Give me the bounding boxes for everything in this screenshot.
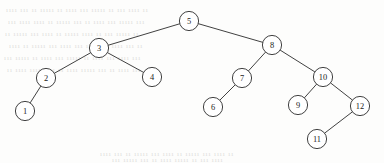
tree-node-2[interactable]: 2 (36, 68, 55, 87)
node-label: 7 (240, 74, 244, 83)
node-label: 11 (313, 135, 321, 144)
tree-edge (199, 24, 263, 42)
node-label: 10 (319, 73, 327, 82)
node-label: 2 (44, 74, 48, 83)
tree-node-7[interactable]: 7 (232, 68, 251, 87)
node-label: 9 (296, 101, 300, 110)
tree-diagram: ıııı ııı ıı ııııı ıı ıııı ııı ııııı ıı ı… (0, 0, 384, 163)
node-layer: 538247101691211 (15, 11, 369, 148)
tree-edge (280, 50, 314, 71)
tree-canvas: 538247101691211 (0, 0, 384, 163)
node-label: 1 (23, 107, 27, 116)
tree-edge (331, 83, 352, 100)
tree-node-1[interactable]: 1 (15, 101, 34, 120)
node-label: 5 (187, 17, 191, 26)
tree-node-11[interactable]: 11 (307, 129, 326, 148)
tree-node-5[interactable]: 5 (179, 11, 198, 30)
tree-node-6[interactable]: 6 (203, 97, 222, 116)
tree-node-12[interactable]: 12 (350, 96, 369, 115)
edge-layer (30, 24, 352, 133)
tree-node-9[interactable]: 9 (288, 95, 307, 114)
tree-edge (109, 24, 180, 45)
tree-node-3[interactable]: 3 (89, 38, 108, 57)
tree-edge (220, 85, 235, 100)
tree-edge (305, 84, 317, 97)
tree-node-4[interactable]: 4 (142, 67, 161, 86)
node-label: 3 (97, 44, 101, 53)
tree-edge (55, 53, 91, 73)
node-label: 6 (211, 103, 215, 112)
tree-edge (325, 112, 352, 133)
tree-node-8[interactable]: 8 (262, 35, 281, 54)
tree-edge (249, 52, 266, 70)
node-label: 8 (270, 41, 274, 50)
node-label: 12 (356, 102, 364, 111)
tree-node-10[interactable]: 10 (313, 67, 332, 86)
tree-edge (30, 86, 40, 102)
tree-edge (108, 53, 143, 72)
